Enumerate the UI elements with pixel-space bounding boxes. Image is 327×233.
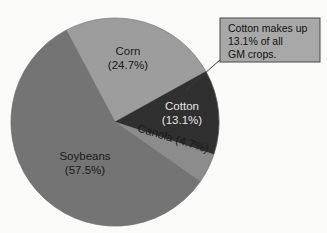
slice-label-corn-value: (24.7%) [108,59,148,71]
slice-label-soybeans-value: (57.5%) [65,164,105,176]
pie-chart-figure: Corn (24.7%) Cotton (13.1%) Canola (4.7%… [0,0,327,233]
callout-line-1: Cotton makes up [228,22,308,34]
callout-line-2: 13.1% of all [228,35,283,47]
slice-label-corn-name: Corn [116,45,141,57]
slice-label-cotton-value: (13.1%) [162,114,202,126]
callout-line-3: GM crops. [228,48,276,60]
pie-chart-svg: Corn (24.7%) Cotton (13.1%) Canola (4.7%… [0,0,327,233]
slice-label-cotton-name: Cotton [165,100,199,112]
slice-label-soybeans-name: Soybeans [59,150,110,162]
